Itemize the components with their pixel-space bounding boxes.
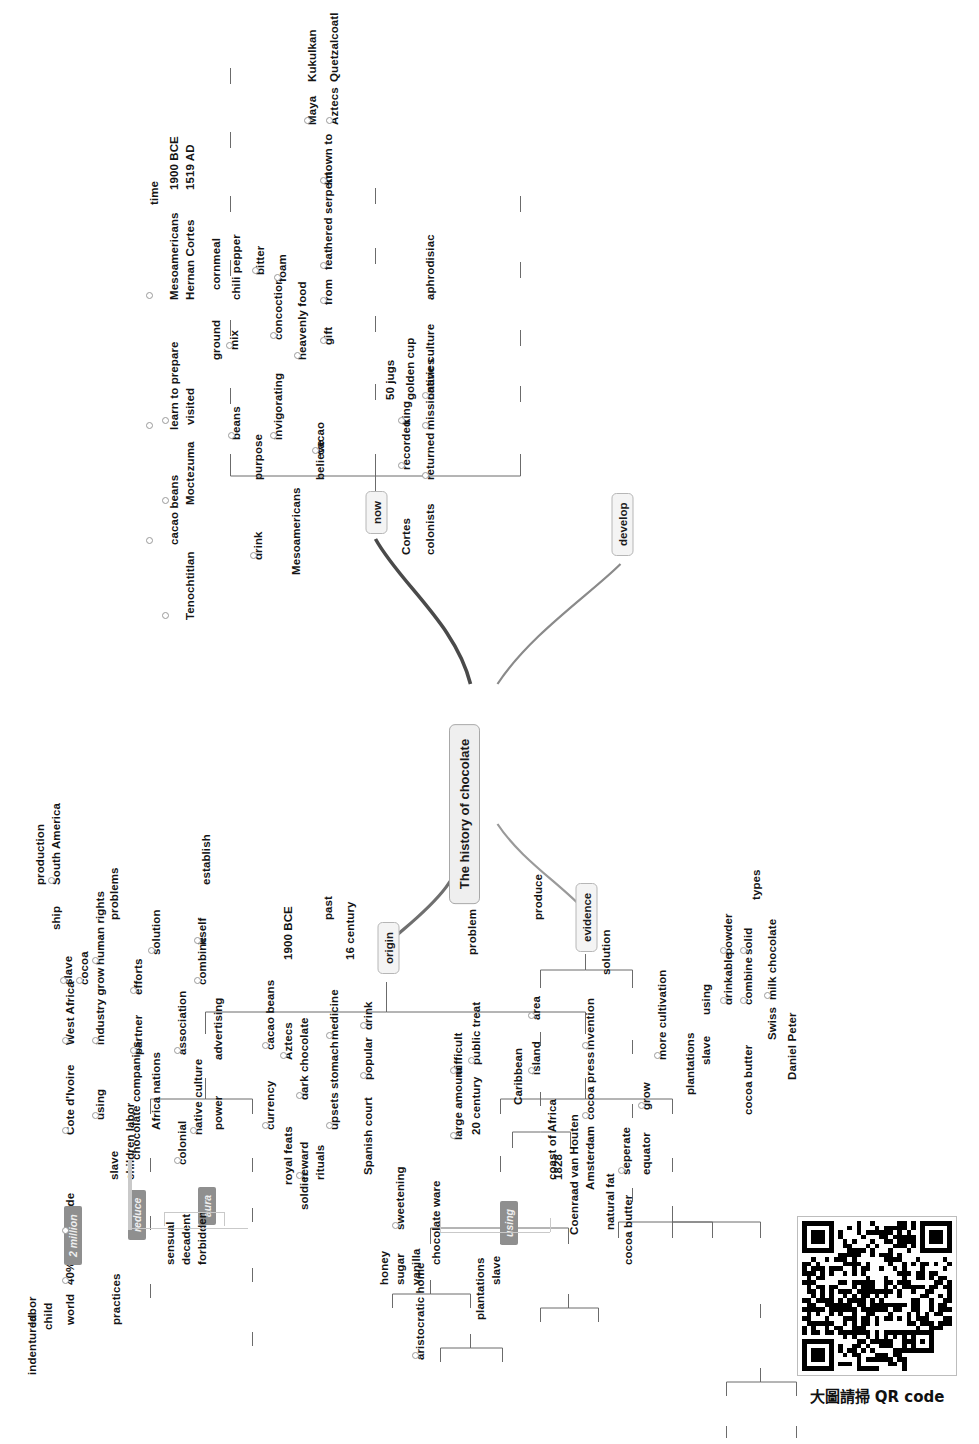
node-aphrodisiac: aphrodisiac (424, 234, 436, 300)
node-bullet (422, 422, 429, 429)
node-bullet (296, 1092, 303, 1099)
node-bullet (48, 877, 55, 884)
node-native-culture: native culture (424, 324, 436, 400)
branch-node-develop[interactable]: develop (611, 493, 633, 556)
node-cacao-beans-2: cacao beans (264, 980, 276, 1050)
node-bullet (162, 612, 169, 619)
node-bullet (162, 497, 169, 504)
node-bullet (304, 117, 311, 124)
node-bullet (130, 987, 137, 994)
node-bullet (764, 992, 771, 999)
node-purpose: purpose (252, 434, 264, 480)
node-1828: 1828 (552, 1154, 564, 1180)
node-bullet (270, 332, 277, 339)
qr-block: 大圖請掃 QR code (793, 1216, 961, 1406)
node-milk-chocolate: milk chocolate (766, 919, 778, 1000)
node-produce: produce (532, 874, 544, 920)
node-bullet (360, 1022, 367, 1029)
node-20-century: 20 century (470, 1076, 482, 1135)
node-ground: ground (210, 320, 222, 360)
node-slave-4: slave (700, 1036, 712, 1065)
node-50-jugs: 50 jugs (384, 360, 396, 400)
node-bullet (740, 947, 747, 954)
node-ship: ship (50, 906, 62, 930)
connector (164, 1212, 165, 1226)
node-cortes: Cortes (400, 518, 412, 555)
node-west-africa: West Africa (64, 981, 76, 1045)
node-cocoa-butter-2: cocoa butter (742, 1045, 754, 1115)
node-cote-divoire: Cote d'Ivoire (64, 1065, 76, 1136)
node-bullet (92, 957, 99, 964)
node-invigorating: invigorating (272, 373, 284, 440)
node-slave-3: slave (490, 1256, 502, 1285)
node-feathered-serpent: feathered serpent (322, 172, 334, 270)
node-royal-feats: royal feats (282, 1126, 294, 1185)
node-bullet (62, 1277, 69, 1284)
node-aristocratic-home: aristocratic home (414, 1262, 426, 1360)
node-moctezuma: Moctezuma (184, 441, 196, 505)
node-bullet (194, 977, 201, 984)
node-cocoa-press: cocoa press (584, 1052, 596, 1120)
connector (130, 1228, 248, 1229)
node-native-culture-2: native culture (192, 1059, 204, 1135)
node-association: association (176, 991, 188, 1055)
node-1900-bce-2: 1900 BCE (282, 906, 294, 960)
node-bullet (326, 117, 333, 124)
node-bullet (312, 447, 319, 454)
node-hernan-cortes: Hernan Cortes (184, 219, 196, 300)
node-bullet (720, 997, 727, 1004)
node-bullet (618, 1167, 625, 1174)
node-using-2: using (700, 984, 712, 1015)
node-bullet (274, 274, 281, 281)
node-bullet (92, 1037, 99, 1044)
branch-node-evidence[interactable]: evidence (575, 883, 597, 952)
node-heavenly-food: heavenly food (296, 281, 308, 360)
node-past: past (322, 896, 334, 920)
node-slave-2: slave (108, 1151, 120, 1180)
badge-using[interactable]: using (500, 1201, 518, 1245)
connector (164, 1212, 224, 1213)
branch-node-origin[interactable]: origin (377, 922, 399, 974)
node-bullet (262, 1042, 269, 1049)
node-sweetening: sweetening (394, 1166, 406, 1230)
node-more-cultivation: more cultivation (656, 970, 668, 1060)
node-public-treat: public treat (470, 1002, 482, 1065)
root-node[interactable]: The history of chocolate (449, 724, 480, 904)
node-bullet (252, 267, 259, 274)
node-production: production (34, 824, 46, 885)
node-bullet (294, 352, 301, 359)
node-swiss: Swiss (766, 1007, 778, 1040)
node-visited: visited (184, 388, 196, 425)
node-bullet (194, 937, 201, 944)
node-bullet (528, 1067, 535, 1074)
node-quetzalcoatl: Quetzalcoatl (328, 12, 340, 82)
node-mesoamericans-2: Mesoamericans (290, 487, 302, 575)
node-bullet (320, 262, 327, 269)
node-solution-2: solution (600, 929, 612, 975)
connector (440, 1232, 550, 1233)
node-bullet (422, 392, 429, 399)
node-honey: honey (378, 1251, 390, 1285)
node-bullet (392, 1222, 399, 1229)
node-bullet (226, 342, 233, 349)
badge-2-million[interactable]: 2 million (64, 1206, 82, 1265)
node-bullet (398, 417, 405, 424)
node-chili-pepper: chili pepper (230, 234, 242, 300)
node-sugar: sugar (394, 1253, 406, 1285)
node-equator: equator (640, 1132, 652, 1175)
node-bullet (190, 1127, 197, 1134)
qr-code-image[interactable] (797, 1216, 957, 1376)
node-coenraad-van-houten: Coenraad van Houten (568, 1114, 580, 1235)
node-bullet (174, 1047, 181, 1054)
node-concoction: concoction (272, 278, 284, 340)
node-bullet (62, 1127, 69, 1134)
node-bullet (280, 1052, 287, 1059)
node-natural-fat: natural fat (604, 1173, 616, 1230)
branch-node-now[interactable]: now (365, 491, 387, 534)
node-rituals: rituals (314, 1145, 326, 1180)
node-golden-cup: golden cup (404, 338, 416, 400)
node-1519-ad: 1519 AD (184, 144, 196, 190)
node-bullet (422, 472, 429, 479)
node-bullet (228, 432, 235, 439)
node-bullet (360, 1072, 367, 1079)
